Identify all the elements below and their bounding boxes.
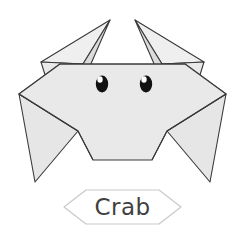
left-eye-highlight — [97, 76, 102, 82]
caption-label: Crab — [94, 194, 150, 220]
right-eye — [140, 76, 152, 93]
origami-crab-figure: Crab — [0, 0, 245, 225]
caption-banner: Crab — [64, 190, 181, 224]
left-eye — [96, 76, 108, 93]
illustration-card: Crab — [0, 0, 245, 225]
right-eye-highlight — [141, 76, 146, 82]
